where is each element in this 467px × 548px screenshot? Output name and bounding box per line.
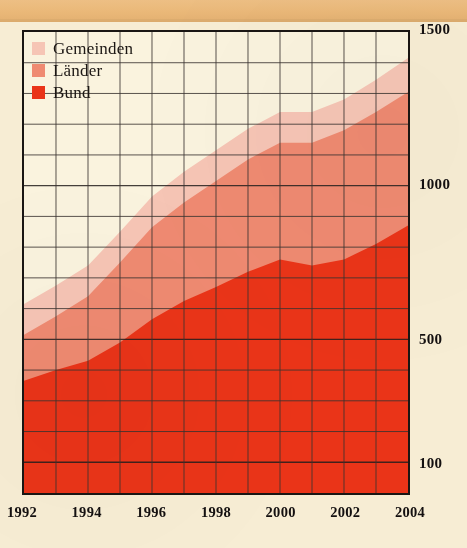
x-tick-label: 1994 <box>61 504 113 521</box>
legend-item-laender: Länder <box>32 60 133 81</box>
legend-label-bund: Bund <box>53 84 91 101</box>
legend-swatch-laender <box>32 64 45 77</box>
legend-label-gemeinden: Gemeinden <box>53 40 133 57</box>
legend-swatch-bund <box>32 86 45 99</box>
y-tick-label: 1000 <box>419 176 450 193</box>
legend-item-gemeinden: Gemeinden <box>32 38 133 59</box>
chart-page: Gemeinden Länder Bund 15001000500100 199… <box>0 22 467 548</box>
legend-label-laender: Länder <box>53 62 102 79</box>
x-tick-label: 2004 <box>384 504 436 521</box>
legend: Gemeinden Länder Bund <box>32 38 133 104</box>
legend-swatch-gemeinden <box>32 42 45 55</box>
y-tick-label: 500 <box>419 331 442 348</box>
x-tick-label: 1992 <box>0 504 48 521</box>
y-tick-label: 1500 <box>419 21 450 38</box>
x-tick-label: 2000 <box>255 504 307 521</box>
x-tick-label: 2002 <box>319 504 371 521</box>
y-tick-label: 100 <box>419 455 442 472</box>
x-tick-label: 1996 <box>125 504 177 521</box>
plot-area: Gemeinden Länder Bund <box>22 30 410 495</box>
x-tick-label: 1998 <box>190 504 242 521</box>
top-decorative-strip <box>0 0 467 22</box>
legend-item-bund: Bund <box>32 82 133 103</box>
